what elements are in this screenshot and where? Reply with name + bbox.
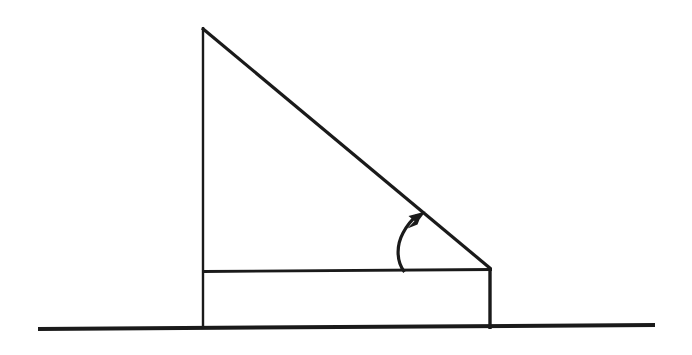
ground-line bbox=[38, 325, 655, 329]
wedge-diagram-svg bbox=[0, 0, 692, 355]
wedge-base-horizontal-line bbox=[203, 270, 492, 272]
wedge-hypotenuse-incline bbox=[202, 28, 491, 269]
figure-canvas bbox=[0, 0, 692, 355]
